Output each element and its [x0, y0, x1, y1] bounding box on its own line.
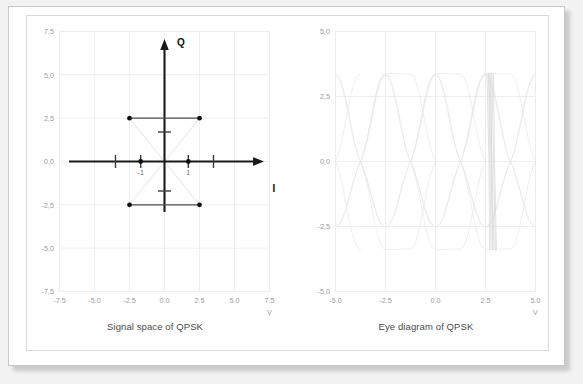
svg-text:-5,0: -5,0	[318, 287, 330, 296]
x-axis-tick-labels: -7,5 -5,0 -2,5 0,0 2,5 5,0 7,5	[53, 296, 274, 303]
signal-space-caption: Signal space of QPSK	[27, 321, 283, 332]
q-axis-name: Q	[177, 37, 185, 48]
signal-space-unit-svg: V	[27, 305, 283, 319]
y-axis-tick-labels: 5,0 2,5 0,0 -2,5 -5,0	[318, 27, 330, 296]
svg-text:-2,5: -2,5	[42, 201, 54, 210]
svg-text:-7,5: -7,5	[42, 287, 54, 296]
figure-card: 7,5 5,0 2,5 0,0 -2,5 -5,0 -7,5 -7,5 -5,0…	[8, 6, 565, 366]
constellation-point	[197, 202, 202, 207]
svg-text:-1: -1	[137, 168, 143, 177]
svg-text:5,0: 5,0	[44, 71, 54, 80]
constellation-point	[127, 202, 132, 207]
i-axis-name: I	[273, 183, 276, 194]
eye-diagram-caption: Eye diagram of QPSK	[301, 321, 551, 332]
svg-text:0,0: 0,0	[320, 157, 330, 166]
svg-text:5,0: 5,0	[320, 27, 330, 36]
svg-text:2,5: 2,5	[195, 296, 205, 303]
svg-text:0,0: 0,0	[160, 296, 170, 303]
figure-signal-space: 7,5 5,0 2,5 0,0 -2,5 -5,0 -7,5 -7,5 -5,0…	[27, 21, 283, 351]
svg-text:7,5: 7,5	[265, 296, 275, 303]
eye-diagram-plot: 5,0 2,5 0,0 -2,5 -5,0 -5,0 -2,5 0,0 2,5 …	[301, 21, 551, 303]
svg-text:1: 1	[186, 168, 190, 177]
svg-text:2,5: 2,5	[481, 296, 491, 303]
svg-text:-2,5: -2,5	[379, 296, 391, 303]
svg-text:7,5: 7,5	[44, 27, 54, 36]
constellation-point	[127, 116, 132, 121]
svg-text:5,0: 5,0	[230, 296, 240, 303]
svg-text:2,5: 2,5	[44, 114, 54, 123]
constellation-point	[197, 116, 202, 121]
q-axis	[160, 39, 169, 212]
x-axis-tick-labels: -5,0 -2,5 0,0 2,5 5,0	[329, 296, 540, 303]
i-axis-arrowhead	[253, 157, 264, 166]
constellation-point	[186, 159, 191, 164]
svg-text:0,0: 0,0	[431, 296, 441, 303]
svg-text:-5,0: -5,0	[42, 244, 54, 253]
svg-text:-5,0: -5,0	[329, 296, 341, 303]
svg-text:-5,0: -5,0	[88, 296, 100, 303]
svg-text:-2,5: -2,5	[123, 296, 135, 303]
x-unit-label: V	[267, 308, 272, 317]
svg-text:-7,5: -7,5	[53, 296, 65, 303]
svg-text:2,5: 2,5	[320, 92, 330, 101]
q-axis-arrowhead	[160, 39, 169, 50]
constellation-point	[138, 159, 143, 164]
signal-space-plot: 7,5 5,0 2,5 0,0 -2,5 -5,0 -7,5 -7,5 -5,0…	[27, 21, 283, 303]
svg-text:-2,5: -2,5	[318, 222, 330, 231]
figure-eye-diagram: 5,0 2,5 0,0 -2,5 -5,0 -5,0 -2,5 0,0 2,5 …	[301, 21, 551, 351]
x-unit-label: V	[533, 308, 538, 317]
svg-text:5,0: 5,0	[531, 296, 541, 303]
eye-diagram-svg: 5,0 2,5 0,0 -2,5 -5,0 -5,0 -2,5 0,0 2,5 …	[301, 21, 551, 303]
svg-text:0,0: 0,0	[44, 157, 54, 166]
y-axis-tick-labels: 7,5 5,0 2,5 0,0 -2,5 -5,0 -7,5	[42, 27, 54, 296]
signal-space-svg: 7,5 5,0 2,5 0,0 -2,5 -5,0 -7,5 -7,5 -5,0…	[27, 21, 283, 303]
eye-diagram-unit-svg: V	[301, 305, 551, 319]
slide-background: 7,5 5,0 2,5 0,0 -2,5 -5,0 -7,5 -7,5 -5,0…	[0, 0, 583, 384]
